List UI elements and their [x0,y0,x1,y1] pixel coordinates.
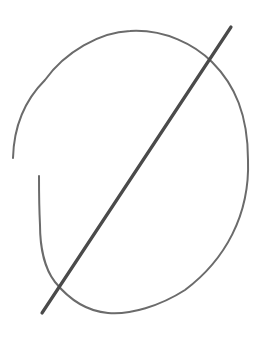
sketch-canvas: Hand-drawn sketch of an empty-set / null… [0,0,272,340]
open-oval-stroke [13,31,248,313]
diagonal-slash-stroke [42,27,231,313]
empty-set-icon [0,0,272,340]
